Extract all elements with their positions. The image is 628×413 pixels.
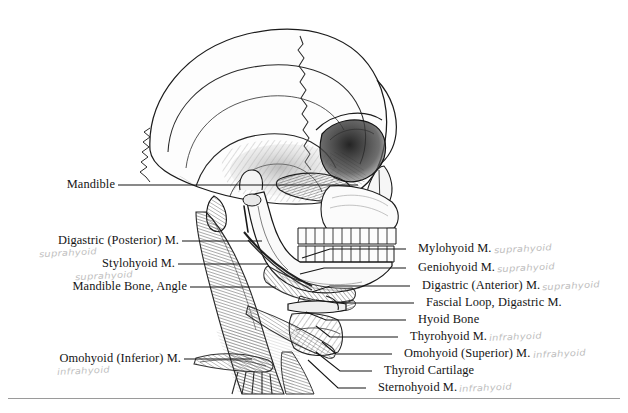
lower-teeth bbox=[298, 246, 394, 262]
label-sternohyoid-text: Sternohyoid M. bbox=[378, 380, 457, 394]
annotation-infrahyoid-1: infrahyoid bbox=[57, 364, 110, 377]
label-hyoid-bone-text: Hyoid Bone bbox=[418, 312, 479, 326]
label-thyroid-cartilage-text: Thyroid Cartilage bbox=[384, 363, 474, 377]
annotation-infrahyoid-4: infrahyoid bbox=[459, 380, 513, 395]
label-hyoid-bone: Hyoid Bone bbox=[418, 313, 479, 326]
label-digastric-anterior: Digastric (Anterior) M. suprahyoid bbox=[422, 279, 599, 292]
annotation-suprahyoid-4: suprahyoid bbox=[497, 260, 556, 275]
label-geniohyoid: Geniohyoid M. suprahyoid bbox=[418, 261, 554, 274]
label-omohyoid-superior: Omohyoid (Superior) M. infrahyoid bbox=[404, 347, 585, 360]
annotation-suprahyoid-1: suprahyoid bbox=[39, 246, 98, 259]
label-thyroid-cartilage: Thyroid Cartilage bbox=[384, 364, 474, 377]
label-stylohyoid: Stylohyoid M. bbox=[102, 257, 175, 270]
label-omohyoid-inferior: Omohyoid (Inferior) M. bbox=[59, 352, 181, 365]
facial-skeleton-group bbox=[207, 80, 399, 293]
label-thyrohyoid: Thyrohyoid M. infrahyoid bbox=[410, 330, 541, 343]
annotation-suprahyoid-3: suprahyoid bbox=[493, 241, 552, 256]
label-fascial-loop: Fascial Loop, Digastric M. bbox=[426, 296, 562, 309]
upper-teeth bbox=[298, 228, 396, 244]
neck-muscle-group bbox=[194, 212, 355, 394]
label-geniohyoid-text: Geniohyoid M. bbox=[418, 260, 495, 274]
footer-rule bbox=[8, 398, 620, 399]
annotation-infrahyoid-2: infrahyoid bbox=[489, 329, 543, 344]
label-mandible-bone-angle: Mandible Bone, Angle bbox=[72, 280, 187, 293]
label-fascial-loop-text: Fascial Loop, Digastric M. bbox=[426, 295, 562, 309]
label-digastric-anterior-text: Digastric (Anterior) M. bbox=[422, 278, 540, 292]
cranium-group bbox=[140, 29, 387, 206]
label-mandible-bone-angle-text: Mandible Bone, Angle bbox=[72, 279, 187, 293]
label-mandible: Mandible bbox=[67, 178, 115, 191]
label-mylohyoid: Mylohyoid M. suprahyoid bbox=[418, 242, 551, 255]
annotation-infrahyoid-3: infrahyoid bbox=[532, 346, 586, 361]
label-sternohyoid: Sternohyoid M. infrahyoid bbox=[378, 381, 511, 394]
label-omohyoid-superior-text: Omohyoid (Superior) M. bbox=[404, 346, 530, 360]
annotation-suprahyoid-5: suprahyoid bbox=[542, 278, 601, 293]
anatomy-figure: Mandible Digastric (Posterior) M. suprah… bbox=[0, 0, 628, 413]
label-mylohyoid-text: Mylohyoid M. bbox=[418, 241, 492, 255]
label-mandible-text: Mandible bbox=[67, 177, 115, 191]
label-digastric-posterior: Digastric (Posterior) M. bbox=[58, 234, 179, 247]
lower-hatch-bundle bbox=[232, 372, 272, 394]
label-digastric-posterior-text: Digastric (Posterior) M. bbox=[58, 233, 179, 247]
label-stylohyoid-text: Stylohyoid M. bbox=[102, 256, 175, 270]
label-thyrohyoid-text: Thyrohyoid M. bbox=[410, 329, 487, 343]
label-omohyoid-inferior-text: Omohyoid (Inferior) M. bbox=[59, 351, 181, 365]
